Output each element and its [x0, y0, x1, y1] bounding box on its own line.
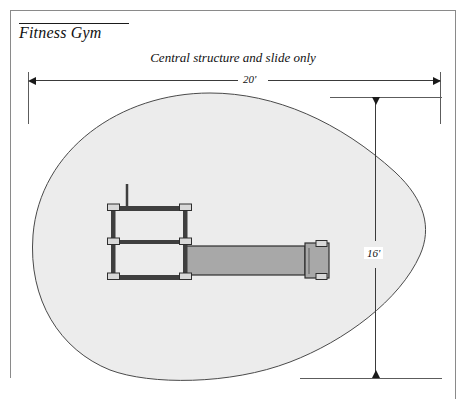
structure-top-beam	[110, 206, 189, 211]
structure-middle-beam	[110, 240, 189, 244]
structure-bottom-beam	[110, 275, 189, 280]
slide-chute	[185, 246, 305, 275]
drawing-page: Fitness Gym Central structure and slide …	[0, 0, 466, 399]
joint-connector	[180, 204, 192, 211]
play-structure	[0, 0, 466, 399]
joint-connector	[316, 241, 327, 247]
joint-connector	[180, 273, 192, 280]
joint-connector	[108, 204, 120, 211]
joint-connector	[316, 274, 327, 280]
joint-connector	[180, 238, 192, 245]
joint-connector	[108, 273, 120, 280]
joint-connector	[108, 238, 120, 245]
